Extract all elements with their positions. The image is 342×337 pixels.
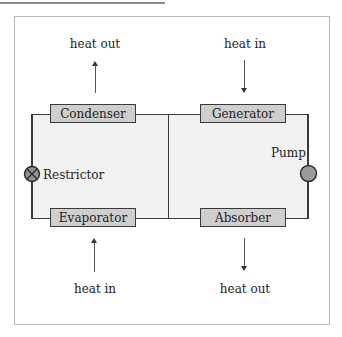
top-rule [0,2,165,4]
condenser-label: Condenser [60,107,126,121]
absorber-label: Absorber [215,211,271,225]
absorber-box: Absorber [200,208,286,227]
generator-arrow-down-icon [241,88,247,93]
evaporator-box: Evaporator [50,208,136,227]
condenser-box: Condenser [50,104,136,123]
evaporator-heat-label: heat in [74,282,116,296]
pump-icon [299,164,318,183]
evaporator-label: Evaporator [59,211,127,225]
absorber-arrow-shaft [244,238,245,266]
condenser-arrow-shaft [95,65,96,93]
condenser-heat-label: heat out [70,37,120,51]
generator-arrow-shaft [244,60,245,90]
absorber-arrow-down-icon [241,266,247,271]
restrictor-valve-icon [23,165,41,183]
pump-label: Pump [271,146,306,160]
generator-heat-label: heat in [224,37,266,51]
generator-label: Generator [212,107,274,121]
evaporator-arrow-shaft [94,242,95,272]
absorber-heat-label: heat out [220,282,270,296]
circuit-area [31,114,308,218]
generator-box: Generator [200,104,286,123]
restrictor-label: Restrictor [43,168,104,182]
wire-middle [168,114,169,219]
